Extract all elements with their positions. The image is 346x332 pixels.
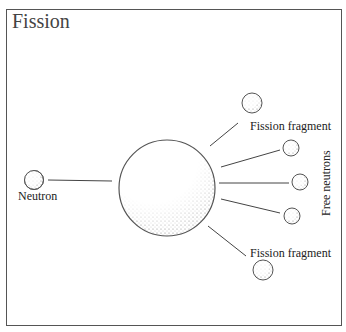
fission-fragment-top [242, 92, 263, 114]
free-neutron-1 [283, 140, 300, 157]
neutron-path-3 [221, 199, 280, 213]
nucleus [113, 128, 215, 236]
free-neutrons-label: Free neutrons [319, 150, 333, 216]
free-neutron-2 [292, 174, 309, 191]
fragment-label-top: Fission fragment [250, 119, 332, 133]
fragment-label-bottom: Fission fragment [250, 246, 332, 260]
fragment-path-bottom [208, 226, 246, 256]
fragment-path-top [210, 123, 238, 146]
neutron-path-1 [221, 150, 280, 167]
neutron-label: Neutron [18, 189, 57, 203]
fission-diagram: Neutron Fission fragment Free neutrons F… [0, 0, 346, 332]
free-neutron-3 [284, 208, 301, 225]
neutron-path [48, 180, 112, 181]
fission-fragment-bottom [253, 259, 274, 281]
neutron-particle [24, 170, 44, 190]
